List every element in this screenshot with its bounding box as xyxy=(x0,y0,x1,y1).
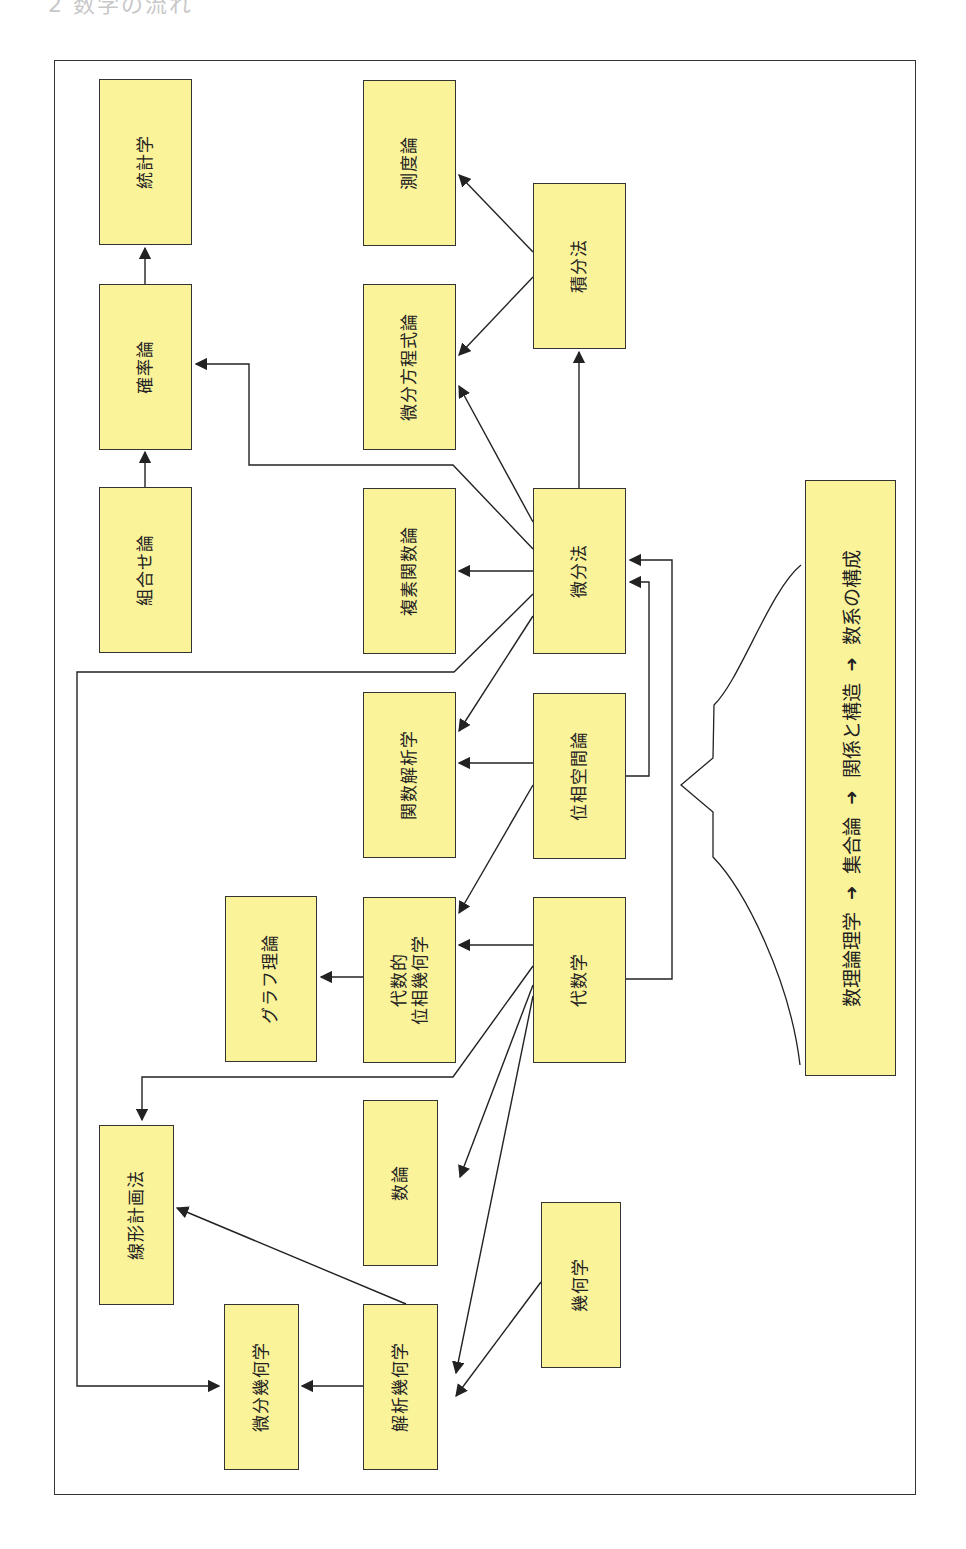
node-geometry: 幾何学 xyxy=(541,1202,621,1368)
node-label: 関数解析学 xyxy=(399,730,420,820)
node-label: 微分方程式論 xyxy=(399,313,420,421)
node-algebraic-topology: 代数的 位相幾何学 xyxy=(363,897,456,1063)
node-label: 線形計画法 xyxy=(126,1170,147,1260)
node-label: 測度論 xyxy=(399,136,420,190)
node-integral-calculus: 積分法 xyxy=(533,183,626,349)
page-heading: 2 数学の流れ xyxy=(48,0,193,18)
node-label: 位相空間論 xyxy=(569,731,590,821)
arrow-right-icon: ➜ xyxy=(841,885,861,899)
node-measure-theory: 測度論 xyxy=(363,80,456,246)
node-number-theory: 数論 xyxy=(363,1100,438,1266)
foundation-step-number-systems: 数系の構成 xyxy=(837,550,864,645)
node-statistics: 統計学 xyxy=(99,79,192,245)
foundation-step-set-theory: 集合論 xyxy=(837,816,864,873)
foundation-step-logic: 数理論理学 xyxy=(837,911,864,1006)
node-label: 幾何学 xyxy=(570,1258,591,1312)
node-label: 解析幾何学 xyxy=(390,1342,411,1432)
node-topological-spaces: 位相空間論 xyxy=(533,693,626,859)
foundation-steps: 数理論理学 ➜ 集合論 ➜ 関係と構造 ➜ 数系の構成 xyxy=(837,550,864,1007)
node-complex-analysis: 複素関数論 xyxy=(363,488,456,654)
node-combinatorics: 組合せ論 xyxy=(99,487,192,653)
node-differential-geometry: 微分幾何学 xyxy=(224,1304,299,1470)
node-graph-theory: グラフ理論 xyxy=(225,896,317,1062)
node-label: 数論 xyxy=(390,1165,411,1201)
node-label: 積分法 xyxy=(569,239,590,293)
diagram-frame xyxy=(54,60,916,1495)
node-analytic-geometry: 解析幾何学 xyxy=(363,1304,438,1470)
node-label: 複素関数論 xyxy=(399,526,420,616)
node-differential-equations: 微分方程式論 xyxy=(363,284,456,450)
node-linear-programming: 線形計画法 xyxy=(99,1125,174,1305)
node-label: 微分幾何学 xyxy=(251,1342,272,1432)
node-functional-analysis: 関数解析学 xyxy=(363,692,456,858)
foundation-step-relations: 関係と構造 xyxy=(837,683,864,778)
node-label: 代数学 xyxy=(569,953,590,1007)
foundation-bar: 数理論理学 ➜ 集合論 ➜ 関係と構造 ➜ 数系の構成 xyxy=(805,480,896,1076)
arrow-right-icon: ➜ xyxy=(841,790,861,804)
node-algebra: 代数学 xyxy=(533,897,626,1063)
arrow-right-icon: ➜ xyxy=(841,657,861,671)
node-label: 組合せ論 xyxy=(135,534,156,606)
node-label: 統計学 xyxy=(135,135,156,189)
node-label-line2: 位相幾何学 xyxy=(410,935,431,1025)
node-label: 微分法 xyxy=(569,544,590,598)
node-label-line1: 代数的 xyxy=(388,935,409,1025)
node-label: 代数的 位相幾何学 xyxy=(388,935,431,1025)
node-differential-calculus: 微分法 xyxy=(533,488,626,654)
node-probability: 確率論 xyxy=(99,284,192,450)
node-label: グラフ理論 xyxy=(260,934,281,1024)
node-label: 確率論 xyxy=(135,340,156,394)
